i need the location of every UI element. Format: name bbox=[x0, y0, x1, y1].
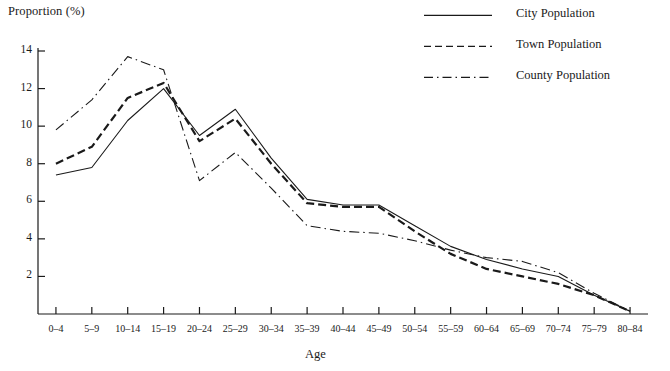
y-tick-label: 8 bbox=[10, 156, 32, 168]
x-tick-label: 45–49 bbox=[359, 323, 399, 334]
x-tick-label: 35–39 bbox=[287, 323, 327, 334]
x-tick-label: 75–79 bbox=[574, 323, 614, 334]
x-tick-label: 5–9 bbox=[72, 323, 112, 334]
y-tick-label: 10 bbox=[10, 118, 32, 130]
population-age-distribution-chart: Proportion (%) Age City Population Town … bbox=[0, 0, 670, 371]
x-tick-label: 80–84 bbox=[610, 323, 650, 334]
y-tick-label: 6 bbox=[10, 193, 32, 205]
x-tick-label: 10–14 bbox=[108, 323, 148, 334]
y-tick-label: 2 bbox=[10, 268, 32, 280]
x-tick-label: 30–34 bbox=[251, 323, 291, 334]
y-tick-label: 14 bbox=[10, 43, 32, 55]
x-tick-label: 15–19 bbox=[144, 323, 184, 334]
x-tick-label: 50–54 bbox=[395, 323, 435, 334]
y-tick-label: 4 bbox=[10, 231, 32, 243]
y-tick-label: 12 bbox=[10, 81, 32, 93]
x-tick-label: 55–59 bbox=[431, 323, 471, 334]
x-tick-label: 40–44 bbox=[323, 323, 363, 334]
x-tick-label: 70–74 bbox=[538, 323, 578, 334]
series-line-town-population bbox=[56, 83, 630, 311]
x-tick-label: 60–64 bbox=[467, 323, 507, 334]
series-line-city-population bbox=[56, 89, 630, 312]
plot-area bbox=[0, 0, 670, 371]
x-tick-label: 25–29 bbox=[215, 323, 255, 334]
x-tick-label: 65–69 bbox=[502, 323, 542, 334]
x-tick-label: 0–4 bbox=[36, 323, 76, 334]
x-tick-label: 20–24 bbox=[179, 323, 219, 334]
